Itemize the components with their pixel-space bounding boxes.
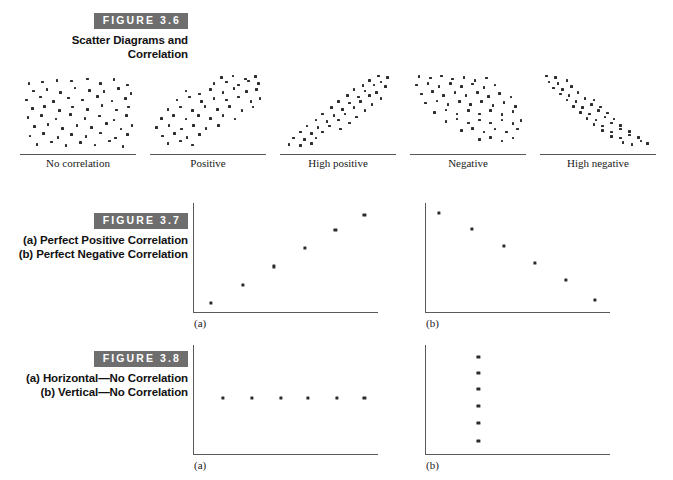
scatter-dot — [96, 95, 99, 98]
scatter-dot — [424, 102, 427, 105]
scatter-dot — [299, 144, 302, 147]
scatter-dot — [449, 82, 452, 85]
scatter-dot — [98, 115, 101, 118]
scatter-dot — [191, 109, 194, 112]
scatter-dot — [595, 119, 598, 122]
scatter-dot — [86, 78, 89, 81]
scatter-dot — [99, 132, 102, 135]
scatter-dot — [252, 106, 255, 109]
scatter-dot — [593, 99, 596, 102]
scatter-dot — [460, 129, 463, 132]
scatter-dot — [520, 119, 523, 122]
scatter-dot — [480, 100, 483, 103]
scatter-dot — [222, 91, 225, 94]
scatter-dot — [131, 124, 134, 127]
scatter-dot — [364, 109, 367, 112]
scatter-dot — [371, 103, 374, 106]
scatter-dot — [552, 87, 555, 90]
scatter-dot — [237, 84, 240, 87]
scatter-dot — [454, 91, 457, 94]
scatter-dot — [232, 75, 235, 78]
scatter-dot — [257, 82, 260, 85]
scatter-dot — [315, 119, 318, 122]
scatter-dot — [245, 90, 248, 93]
scatter-dot — [512, 137, 515, 140]
scatter-dot — [514, 105, 517, 108]
scatter-dot — [510, 96, 513, 99]
scatter-dot — [69, 113, 72, 116]
data-point — [564, 279, 567, 282]
scatter-dot — [114, 137, 117, 140]
scatter-dot — [601, 125, 604, 128]
scatter-dot — [377, 75, 380, 78]
data-point — [250, 397, 253, 400]
scatter-dot — [561, 88, 564, 91]
scatter-dot — [489, 122, 492, 125]
scatter-panel-3: High positive — [278, 70, 398, 175]
scatter-dot — [581, 106, 584, 109]
scatter-dot — [29, 135, 32, 138]
scatter-dot — [566, 99, 569, 102]
scatter-dot — [575, 100, 578, 103]
scatter-dot — [32, 90, 35, 93]
scatter-dot — [628, 134, 631, 137]
figure-3-7-tag: FIGURE 3.7 — [94, 213, 188, 229]
scatter-dot — [292, 137, 295, 140]
scatter-dot — [646, 142, 649, 145]
scatter-dot — [353, 88, 356, 91]
scatter-dot — [259, 97, 262, 100]
scatter-dot — [498, 92, 501, 95]
figure-3-7-title: (a) Perfect Positive Correlation (b) Per… — [18, 233, 188, 262]
scatter-dot — [217, 124, 220, 127]
scatter-dot — [599, 106, 602, 109]
scatter-dot — [31, 107, 34, 110]
scatter-dot — [310, 132, 313, 135]
scatter-dot — [70, 133, 73, 136]
scatter-dot — [610, 131, 613, 134]
data-point — [438, 211, 441, 214]
scatter-dot — [637, 136, 640, 139]
scatter-dot — [188, 96, 191, 99]
scatter-dot — [606, 112, 609, 115]
scatter-dot — [471, 127, 474, 130]
scatter-dot — [81, 99, 84, 102]
scatter-dot — [427, 82, 430, 85]
scatter-dot — [39, 96, 42, 99]
scatter-dot — [204, 105, 207, 108]
scatter-dot — [247, 80, 250, 83]
scatter-dot — [489, 109, 492, 112]
data-point — [334, 229, 337, 232]
scatter-dot — [368, 94, 371, 97]
scatter-panel-label: Positive — [148, 157, 268, 169]
scatter-panel-label: No correlation — [18, 157, 138, 169]
scatter-dot — [559, 93, 562, 96]
scatter-dot — [579, 111, 582, 114]
scatter-dot — [71, 106, 74, 109]
scatter-dot — [70, 80, 73, 83]
scatter-dot — [348, 122, 351, 125]
scatter-dot — [476, 91, 479, 94]
scatter-dot — [330, 106, 333, 109]
scatter-dot — [172, 114, 175, 117]
scatter-dot — [55, 118, 58, 121]
scatter-dot — [494, 84, 497, 87]
scatter-dot — [33, 125, 36, 128]
scatter-dot — [339, 128, 342, 131]
scatter-dot — [431, 90, 434, 93]
scatter-dot — [463, 76, 466, 79]
scatter-dot — [84, 117, 87, 120]
scatter-dot — [447, 103, 450, 106]
data-point — [272, 265, 275, 268]
scatter-dot — [125, 114, 128, 117]
data-point — [221, 397, 224, 400]
scatter-dot — [36, 143, 39, 146]
scatter-dot — [180, 128, 183, 131]
scatter-panel-5: High negative — [538, 70, 658, 175]
scatter-dot — [373, 84, 376, 87]
scatter-dot — [344, 113, 347, 116]
scatter-cloud — [538, 70, 658, 154]
scatter-panel-label: High positive — [278, 157, 398, 169]
scatter-dot — [566, 79, 569, 82]
scatter-dot — [483, 131, 486, 134]
scatter-dot — [244, 78, 247, 81]
